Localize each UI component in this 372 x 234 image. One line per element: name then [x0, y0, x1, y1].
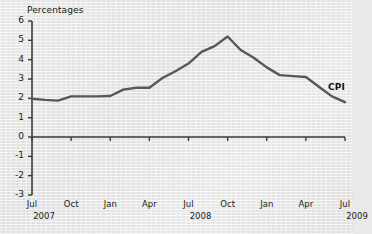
y-tick-label: -2 — [6, 170, 24, 180]
y-tick-label: 1 — [6, 112, 24, 122]
x-tick-label: Apr — [289, 199, 323, 209]
x-tick-label: Jan — [93, 199, 127, 209]
x-year-label: 2009 — [337, 211, 372, 221]
x-tick-label: Oct — [211, 199, 245, 209]
x-year-label: 2007 — [24, 211, 64, 221]
y-axis — [28, 21, 32, 195]
y-tick-label: -3 — [6, 189, 24, 199]
y-tick-label: 3 — [6, 73, 24, 83]
x-axis — [32, 137, 345, 141]
x-tick-label: Apr — [132, 199, 166, 209]
y-tick-label: 2 — [6, 92, 24, 102]
x-year-label: 2008 — [181, 211, 221, 221]
x-tick-label: Jul — [15, 199, 49, 209]
series-label-cpi: CPI — [328, 82, 345, 92]
y-tick-label: 0 — [6, 131, 24, 141]
x-tick-label: Jul — [328, 199, 362, 209]
x-tick-label: Jul — [172, 199, 206, 209]
data-series-group — [32, 36, 345, 102]
y-tick-label: 4 — [6, 54, 24, 64]
y-tick-label: 5 — [6, 34, 24, 44]
x-tick-label: Jan — [250, 199, 284, 209]
y-tick-label: -1 — [6, 150, 24, 160]
x-tick-label: Oct — [54, 199, 88, 209]
y-tick-label: 6 — [6, 15, 24, 25]
